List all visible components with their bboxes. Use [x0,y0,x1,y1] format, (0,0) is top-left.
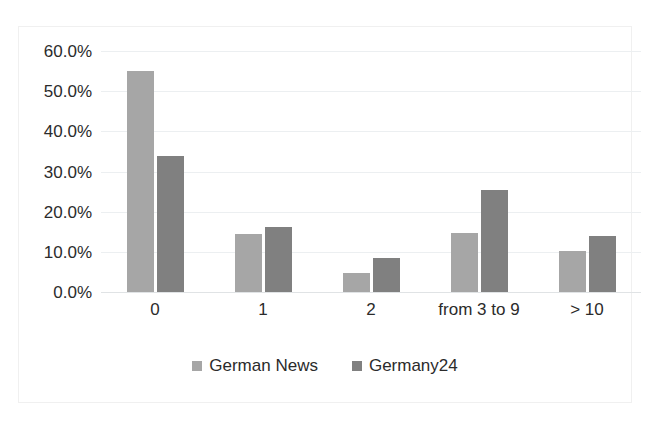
legend-swatch-icon [192,361,202,371]
bar [589,236,616,292]
gridline: 0.0% [101,292,641,293]
bar-group [209,51,317,292]
chart-legend: German NewsGermany24 [19,357,631,374]
bar [265,227,292,292]
bar [451,233,478,292]
x-axis-tick-label: > 10 [533,299,641,320]
legend-entry[interactable]: German News [192,357,318,374]
bar [157,156,184,292]
bar [559,251,586,292]
y-axis-tick-label: 60.0% [44,43,92,60]
legend-label: German News [209,357,318,374]
bar-groups [101,51,641,292]
bar [127,71,154,292]
x-axis-labels: 012from 3 to 9> 10 [101,299,641,320]
bar [373,258,400,292]
legend-swatch-icon [352,361,362,371]
y-axis-tick-label: 20.0% [44,203,92,220]
bar-group [533,51,641,292]
y-axis-tick-label: 10.0% [44,243,92,260]
x-axis-tick-label: 0 [101,299,209,320]
y-axis-tick-label: 0.0% [53,284,92,301]
bar-group [425,51,533,292]
y-axis-tick-label: 40.0% [44,123,92,140]
bar-group [317,51,425,292]
x-axis-tick-label: 2 [317,299,425,320]
y-axis-tick-label: 50.0% [44,83,92,100]
x-axis-tick-label: from 3 to 9 [425,299,533,320]
plot-area: 0.0%10.0%20.0%30.0%40.0%50.0%60.0% [101,51,641,292]
bar [343,273,370,292]
chart-container: 0.0%10.0%20.0%30.0%40.0%50.0%60.0% 012fr… [18,26,632,403]
y-axis-tick-label: 30.0% [44,163,92,180]
bar [235,234,262,292]
bar-group [101,51,209,292]
legend-label: Germany24 [369,357,458,374]
bar [481,190,508,292]
x-axis-tick-label: 1 [209,299,317,320]
legend-entry[interactable]: Germany24 [352,357,458,374]
